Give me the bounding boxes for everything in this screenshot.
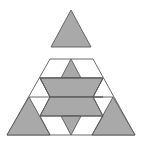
top-triangle (51, 10, 91, 47)
lower-band (40, 97, 103, 116)
puzzle-figure (0, 0, 149, 146)
upper-band-fill (40, 78, 103, 97)
